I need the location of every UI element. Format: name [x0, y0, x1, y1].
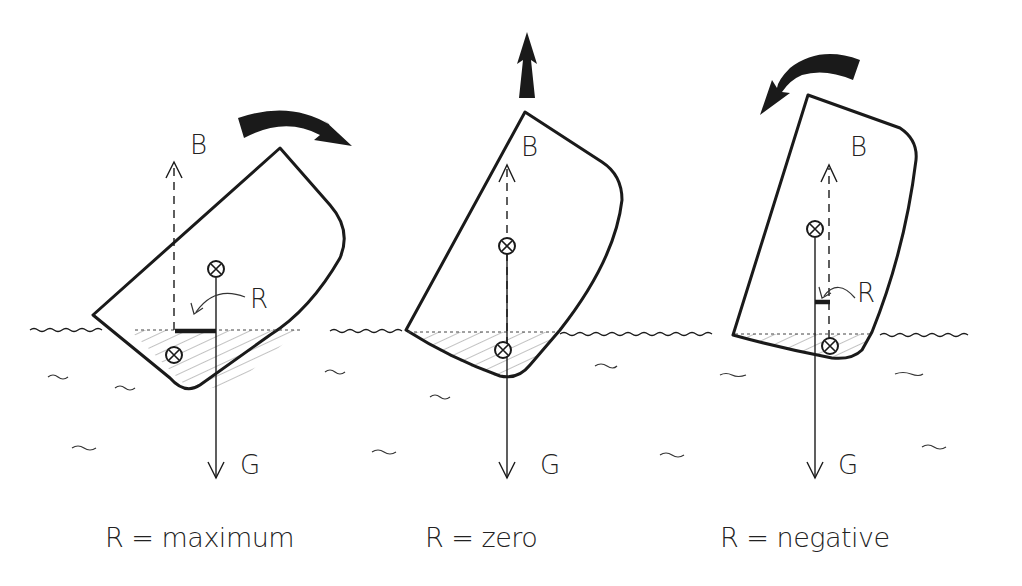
buoyancy-label-negative: B: [850, 132, 867, 162]
panel-negative-hull: [733, 95, 916, 358]
righting-lever-label-negative: R: [857, 278, 875, 308]
curved-arrow-clockwise-icon: [238, 110, 352, 146]
center-of-buoyancy-icon: [166, 347, 182, 363]
caption-negative: R = negative: [720, 522, 890, 553]
center-of-mass-icon: [807, 221, 823, 237]
caption-max: R = maximum: [105, 522, 294, 553]
buoyancy-label-zero: B: [521, 132, 538, 162]
gravity-label-negative: G: [838, 450, 858, 480]
buoyancy-label-max: B: [190, 130, 207, 160]
panel-zero-forces: [495, 165, 515, 478]
center-of-mass-icon: [499, 238, 515, 254]
center-of-buoyancy-icon: [822, 338, 838, 354]
righting-lever-label-max: R: [250, 284, 268, 314]
curved-arrow-counterclockwise-icon: [760, 54, 860, 115]
gravity-label-max: G: [240, 450, 260, 480]
center-of-mass-icon: [208, 261, 224, 277]
up-arrow-icon: [517, 32, 537, 98]
caption-zero: R = zero: [425, 522, 537, 553]
panel-max-forces: [166, 162, 245, 478]
heeling-diagram: B R G B G B R G R = maximum R = zero R =…: [0, 0, 1022, 586]
panel-negative-forces: [807, 165, 855, 478]
gravity-label-zero: G: [540, 450, 560, 480]
center-of-buoyancy-icon: [495, 342, 511, 358]
